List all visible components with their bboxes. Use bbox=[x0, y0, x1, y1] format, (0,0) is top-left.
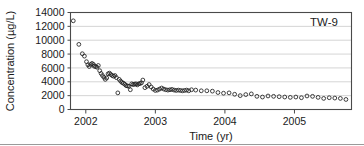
y-tick-label: 10000 bbox=[35, 34, 64, 46]
x-tick-label: 2003 bbox=[144, 115, 168, 127]
data-point bbox=[327, 96, 331, 100]
data-point bbox=[344, 98, 348, 102]
y-tick-label: 12000 bbox=[35, 20, 64, 32]
y-axis-title: Concentration (µg/L) bbox=[4, 11, 16, 112]
panel-label-annotation: TW-9 bbox=[310, 16, 338, 28]
data-point bbox=[83, 54, 87, 58]
data-point bbox=[216, 91, 220, 95]
y-tick-label: 8000 bbox=[41, 48, 65, 60]
x-axis-title: Time (yr) bbox=[189, 130, 233, 142]
data-point bbox=[194, 88, 198, 92]
y-axis: 02000400060008000100001200014000 bbox=[35, 6, 70, 115]
data-point bbox=[322, 97, 326, 101]
data-point bbox=[255, 94, 259, 98]
y-tick-label: 0 bbox=[59, 103, 65, 115]
x-axis: 2002200320042005 bbox=[74, 110, 306, 127]
data-point bbox=[333, 96, 337, 100]
y-tick-label: 2000 bbox=[41, 89, 65, 101]
data-series-tw-9 bbox=[71, 19, 347, 101]
data-point bbox=[71, 19, 75, 23]
concentration-time-scatter-plot: 02000400060008000100001200014000 2002200… bbox=[0, 0, 364, 146]
chart-figure: 02000400060008000100001200014000 2002200… bbox=[0, 0, 364, 146]
data-point bbox=[116, 91, 120, 95]
page-separator-rule bbox=[0, 144, 364, 145]
data-point bbox=[288, 95, 292, 99]
y-tick-label: 14000 bbox=[35, 6, 64, 18]
x-tick-label: 2005 bbox=[283, 115, 307, 127]
data-point bbox=[272, 94, 276, 98]
data-point bbox=[311, 94, 315, 98]
x-tick-label: 2002 bbox=[74, 115, 98, 127]
y-tick-label: 4000 bbox=[41, 75, 65, 87]
data-point bbox=[227, 91, 231, 95]
data-point bbox=[222, 91, 226, 95]
data-point bbox=[249, 92, 253, 96]
data-point bbox=[338, 97, 342, 101]
data-point bbox=[205, 89, 209, 93]
y-tick-label: 6000 bbox=[41, 62, 65, 74]
data-point bbox=[316, 95, 320, 99]
data-point bbox=[300, 96, 304, 100]
data-point bbox=[210, 89, 214, 93]
data-point bbox=[77, 42, 81, 46]
x-tick-label: 2004 bbox=[213, 115, 237, 127]
data-point bbox=[128, 88, 132, 92]
data-point bbox=[199, 89, 203, 93]
